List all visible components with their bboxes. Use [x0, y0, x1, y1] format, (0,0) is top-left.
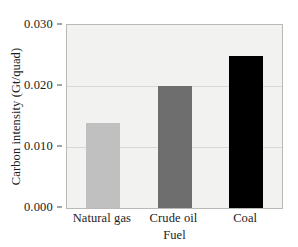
- y-tick-mark-1: [57, 146, 62, 147]
- bar-coal: [229, 56, 263, 209]
- y-axis-title: Carbon intensity (Gt/quad): [8, 24, 26, 209]
- x-tick-label-natural-gas: Natural gas: [73, 211, 131, 226]
- y-tick-mark-3: [57, 24, 62, 25]
- plot-area: [66, 24, 283, 209]
- y-tick-label-2: 0.020: [24, 78, 53, 93]
- y-tick-label-3: 0.030: [24, 17, 53, 32]
- x-tick-label-coal: Coal: [233, 211, 257, 226]
- y-axis-title-text: Carbon intensity (Gt/quad): [10, 48, 25, 185]
- bar-chart-figure: 0.000 0.010 0.020 0.030 Carbon intensity…: [0, 0, 298, 247]
- y-tick-mark-0: [57, 207, 62, 208]
- x-tick-label-crude-oil: Crude oil: [150, 211, 198, 226]
- x-axis-tick-labels: Natural gas Crude oil Coal: [66, 211, 283, 229]
- y-tick-label-0: 0.000: [24, 200, 53, 215]
- bar-crude-oil: [158, 86, 192, 208]
- bars-layer: [67, 25, 282, 208]
- y-tick-mark-2: [57, 85, 62, 86]
- x-axis-title: Fuel: [66, 228, 283, 243]
- bar-natural-gas: [86, 123, 120, 208]
- y-tick-label-1: 0.010: [24, 139, 53, 154]
